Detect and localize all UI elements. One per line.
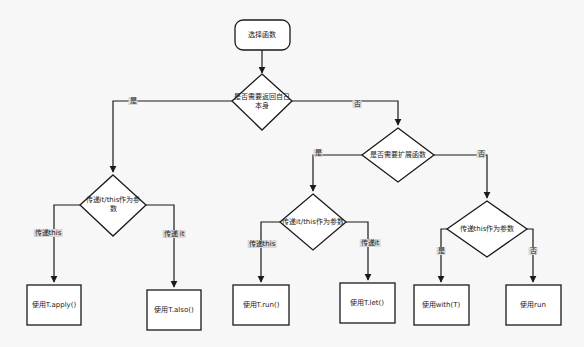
edge-label-mid-pass-this: 传递this [248, 240, 277, 248]
edge-extension-yes [313, 155, 362, 191]
edge-left-pass-it [146, 205, 174, 287]
edge-label-return-self-yes: 是 [129, 97, 138, 105]
edge-left-pass-this [54, 205, 80, 282]
edge-pass-this-no [527, 229, 533, 282]
node-decision-pass-it-this-left-label: 传递it/this作为参数 [83, 196, 143, 214]
edge-label-extension-no: 否 [477, 150, 486, 158]
node-use-run-ext-label: 使用T.run() [243, 301, 280, 310]
edge-label-pass-this-no: 否 [529, 247, 538, 255]
edge-return-self-no [292, 101, 398, 125]
edge-label-return-self-no: 否 [353, 100, 362, 108]
node-use-run-label: 使用run [520, 301, 546, 310]
node-decision-return-self-label: 是否需要返回自己本身 [234, 93, 290, 111]
edge-return-self-yes [113, 101, 232, 172]
edge-label-left-pass-this: 传递this [34, 229, 63, 237]
node-decision-pass-this-label: 传递this作为参数 [460, 225, 515, 234]
edge-label-left-pass-it: 传递 it [163, 230, 186, 238]
node-decision-extension-label: 是否需要扩展函数 [370, 151, 426, 160]
edge-extension-no [434, 155, 487, 198]
edge-pass-this-yes [441, 229, 447, 282]
edge-label-extension-yes: 是 [314, 149, 323, 157]
node-use-with-label: 使用with(T) [422, 301, 461, 310]
node-use-apply-label: 使用T.apply() [32, 301, 76, 310]
node-use-also-label: 使用T.also() [154, 306, 193, 315]
node-decision-pass-it-this-mid-label: 传递it/this作为参数 [280, 218, 346, 227]
edge-mid-pass-it [346, 222, 368, 280]
edge-mid-pass-this [261, 222, 280, 282]
edge-label-mid-pass-it: 传递it [360, 239, 381, 247]
flowchart-canvas [0, 0, 584, 347]
node-use-let-label: 使用T.let() [350, 299, 384, 308]
node-start-label: 选择函数 [248, 31, 276, 40]
edge-label-pass-this-yes: 是 [437, 247, 446, 255]
